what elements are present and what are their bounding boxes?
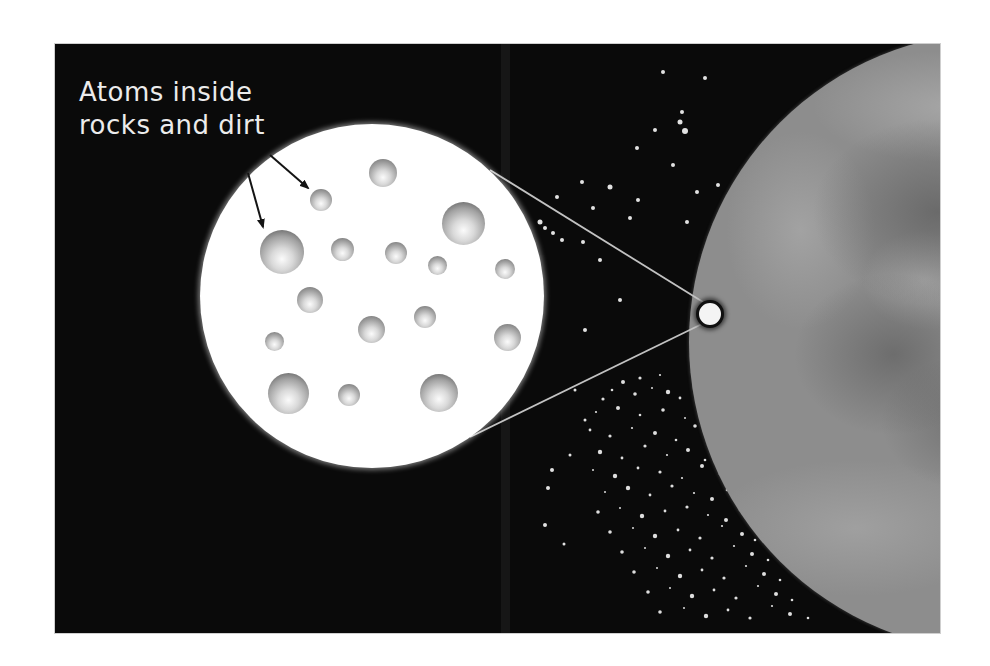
label-arrow	[270, 155, 308, 188]
space-scene-frame: Atoms inside rocks and dirt	[55, 44, 940, 633]
label-arrow	[248, 173, 263, 227]
atoms-label-line2: rocks and dirt	[79, 109, 265, 142]
atoms-label-line1: Atoms inside	[79, 76, 265, 109]
illustration: Atoms inside rocks and dirt	[0, 0, 990, 666]
atoms-label: Atoms inside rocks and dirt	[79, 76, 265, 142]
